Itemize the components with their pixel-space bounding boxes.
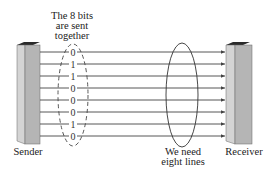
bit-values: 0 1 1 0 0 0 1 0 <box>69 47 77 142</box>
bit-4: 0 <box>71 83 76 94</box>
top-caption: The 8 bits are sent together <box>51 10 93 41</box>
bit-5: 0 <box>71 95 76 106</box>
bit-1: 0 <box>71 47 76 58</box>
sender-device <box>17 42 40 144</box>
lines-group-ellipse <box>166 43 198 147</box>
caption-line-3: together <box>55 30 90 41</box>
need-caption-line-2: eight lines <box>161 156 204 167</box>
bit-3: 1 <box>71 71 76 82</box>
bit-2: 1 <box>71 59 76 70</box>
bit-7: 1 <box>71 119 76 130</box>
receiver-device <box>226 42 252 144</box>
transmission-lines <box>40 52 225 136</box>
parallel-transmission-diagram: The 8 bits are sent together 0 1 <box>0 0 276 174</box>
receiver-label: Receiver <box>225 146 263 157</box>
bit-8: 0 <box>71 131 76 142</box>
sender-label: Sender <box>13 146 43 157</box>
bit-6: 0 <box>71 107 76 118</box>
